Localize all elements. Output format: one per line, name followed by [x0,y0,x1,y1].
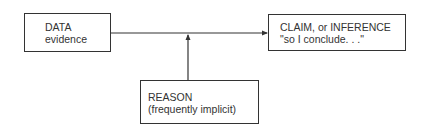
reason-title: REASON [148,91,236,103]
data-label: DATA evidence [45,21,87,45]
data-title: DATA [45,21,87,33]
data-subtitle: evidence [45,33,87,45]
reason-label: REASON (frequently implicit) [148,91,236,115]
claim-quote: "so I conclude. . ." [280,33,391,45]
claim-title: CLAIM, or INFERENCE [280,21,391,33]
reason-box: REASON (frequently implicit) [140,80,259,124]
claim-label: CLAIM, or INFERENCE "so I conclude. . ." [280,21,391,45]
reason-note: (frequently implicit) [148,103,236,115]
data-box: DATA evidence [24,13,111,52]
claim-box: CLAIM, or INFERENCE "so I conclude. . ." [268,14,406,51]
